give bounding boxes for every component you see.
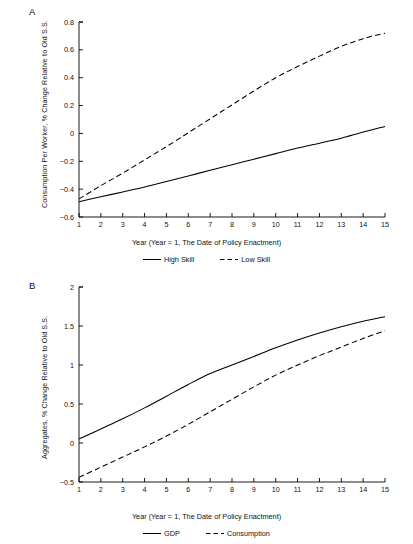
y-tick-label: 0.8 <box>64 18 74 27</box>
series-line-consumption <box>79 331 385 478</box>
y-tick-label: 0.5 <box>64 400 74 409</box>
x-tick-label: 12 <box>315 485 323 494</box>
x-tick-label: 11 <box>294 220 301 229</box>
panel-a-legend: High SkillLow Skill <box>0 256 413 263</box>
dashed-line-icon <box>206 530 224 537</box>
legend-item: Consumption <box>206 530 270 537</box>
x-tick-label: 14 <box>359 220 367 229</box>
x-tick-label: 7 <box>208 220 212 229</box>
y-tick-label: −0.6 <box>60 213 74 222</box>
legend-label: High Skill <box>164 256 194 263</box>
x-tick-label: 8 <box>230 220 234 229</box>
x-tick-label: 8 <box>230 485 234 494</box>
x-tick-label: 3 <box>121 220 125 229</box>
y-tick-label: −0.4 <box>60 185 74 194</box>
dashed-line-icon <box>220 256 238 263</box>
y-tick-label: 0 <box>70 129 74 138</box>
solid-line-icon <box>143 256 161 263</box>
x-tick-label: 1 <box>77 220 81 229</box>
legend-item: Low Skill <box>220 256 270 263</box>
x-tick-label: 9 <box>252 220 256 229</box>
series-line-low-skill <box>79 33 385 199</box>
series-line-high-skill <box>79 126 385 201</box>
x-tick-label: 9 <box>252 485 256 494</box>
x-tick-label: 1 <box>77 485 81 494</box>
panel-a-plot-area: −0.6−0.4−0.200.20.40.60.8123456789101112… <box>0 0 413 240</box>
y-tick-label: −0.5 <box>60 478 74 487</box>
x-tick-label: 13 <box>337 485 345 494</box>
legend-item: High Skill <box>143 256 194 263</box>
y-tick-label: −0.2 <box>60 157 74 166</box>
x-tick-label: 15 <box>381 220 389 229</box>
x-tick-label: 4 <box>143 485 147 494</box>
x-tick-label: 6 <box>186 220 190 229</box>
x-tick-label: 12 <box>315 220 323 229</box>
legend-label: Consumption <box>227 530 270 537</box>
series-line-gdp <box>79 317 385 439</box>
x-tick-label: 5 <box>164 485 168 494</box>
x-tick-label: 6 <box>186 485 190 494</box>
panel-b: B Aggregates, % Change Relative to Old S… <box>0 272 413 544</box>
panel-b-plot-area: −0.500.511.52123456789101112131415 <box>0 272 413 517</box>
x-tick-label: 5 <box>164 220 168 229</box>
x-tick-label: 3 <box>121 485 125 494</box>
y-tick-label: 2 <box>70 283 74 292</box>
y-tick-label: 1 <box>70 361 74 370</box>
figure-two-panel-line-charts: A Consumption Per Worker, % Change Relat… <box>0 0 413 544</box>
x-tick-label: 13 <box>337 220 345 229</box>
x-tick-label: 7 <box>208 485 212 494</box>
x-tick-label: 4 <box>143 220 147 229</box>
x-tick-label: 10 <box>272 485 280 494</box>
y-tick-label: 0.2 <box>64 101 74 110</box>
legend-label: GDP <box>164 530 180 537</box>
panel-a-x-axis-title: Year (Year = 1, The Date of Policy Enact… <box>0 238 413 247</box>
x-tick-label: 2 <box>99 485 103 494</box>
y-tick-label: 0.4 <box>64 73 74 82</box>
solid-line-icon <box>143 530 161 537</box>
x-tick-label: 15 <box>381 485 389 494</box>
x-tick-label: 14 <box>359 485 367 494</box>
panel-b-x-axis-title: Year (Year = 1, The Date of Policy Enact… <box>0 512 413 521</box>
legend-label: Low Skill <box>241 256 270 263</box>
x-tick-label: 11 <box>294 485 301 494</box>
panel-a: A Consumption Per Worker, % Change Relat… <box>0 0 413 272</box>
legend-item: GDP <box>143 530 180 537</box>
x-tick-label: 10 <box>272 220 280 229</box>
y-tick-label: 0 <box>70 439 74 448</box>
y-tick-label: 0.6 <box>64 45 74 54</box>
panel-b-legend: GDPConsumption <box>0 530 413 537</box>
y-tick-label: 1.5 <box>64 322 74 331</box>
x-tick-label: 2 <box>99 220 103 229</box>
